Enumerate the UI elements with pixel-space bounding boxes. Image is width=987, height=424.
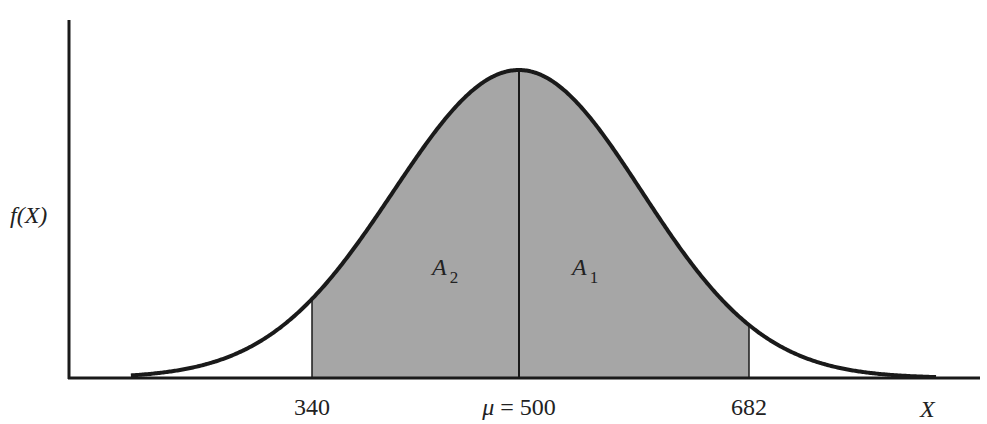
tick-label-500: μ = 500 — [481, 394, 556, 420]
y-axis-label: f(X) — [10, 202, 47, 228]
normal-distribution-chart: f(X)X340μ = 500682A2A1 — [0, 0, 987, 424]
x-axis-label: X — [919, 396, 936, 422]
tick-label-340: 340 — [294, 394, 330, 420]
tick-label-682: 682 — [731, 394, 767, 420]
shaded-area-a1-a2 — [312, 70, 749, 378]
